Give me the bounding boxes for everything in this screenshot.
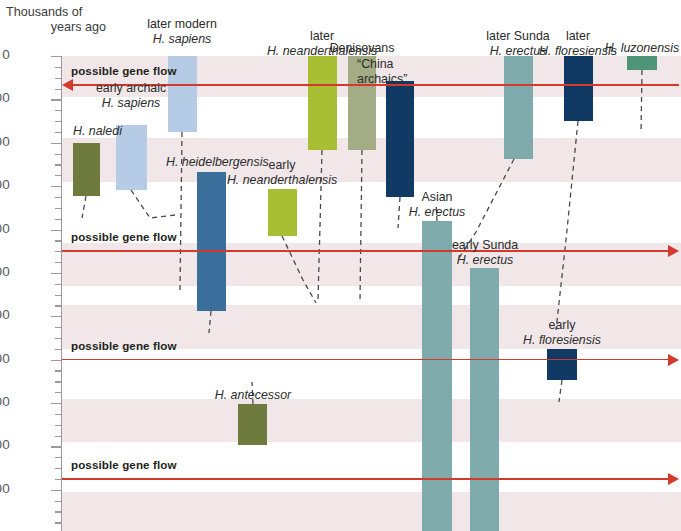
axis-tick-minor <box>55 164 61 165</box>
arrow-head <box>668 354 679 366</box>
axis-tick-minor <box>55 349 61 350</box>
species-bar <box>627 56 657 70</box>
species-label-line: “China <box>357 57 407 72</box>
species-bar <box>308 56 337 150</box>
species-label-line: Asian <box>409 190 465 205</box>
axis-tick-major <box>51 143 61 144</box>
species-label-line: archaics” <box>357 72 407 87</box>
species-label-line: H. erectus <box>409 205 465 220</box>
species-bar <box>197 172 226 311</box>
axis-tick-label: 900 <box>0 437 10 452</box>
axis-tick-label: 400 <box>0 221 10 236</box>
species-label: early archaicH. sapiens <box>96 81 166 110</box>
arrow-head <box>62 79 73 91</box>
axis-tick-minor <box>55 110 61 111</box>
axis-tick-label: 800 <box>0 394 10 409</box>
axis-tick-minor <box>55 208 61 209</box>
axis-tick-major <box>51 56 61 57</box>
axis-tick-label: 100 <box>0 90 10 105</box>
species-label: early SundaH. erectus <box>452 238 518 267</box>
hominin-timeline-figure: Thousands of years ago 01002003004005006… <box>0 0 681 531</box>
axis-tick-major <box>51 230 61 231</box>
background-band <box>62 399 681 442</box>
axis-tick-label: 500 <box>0 264 10 279</box>
species-label-line: H. luzonensis <box>605 41 679 56</box>
axis-tick-major <box>51 99 61 100</box>
species-label: earlyH. neanderthalensis <box>227 158 337 187</box>
axis-tick-label: 300 <box>0 177 10 192</box>
gene-flow-arrow <box>62 245 679 257</box>
species-label-line: H. sapiens <box>147 32 217 47</box>
species-bar <box>470 268 499 531</box>
axis-tick-minor <box>55 262 61 263</box>
species-label: AsianH. erectus <box>409 190 465 219</box>
gene-flow-arrow <box>62 354 679 366</box>
species-label-line: early <box>227 158 337 173</box>
axis-tick-minor <box>55 501 61 502</box>
species-label-line: H. floresiensis <box>523 333 601 348</box>
axis-tick-label: 600 <box>0 307 10 322</box>
axis-tick-minor <box>55 89 61 90</box>
axis-tick-minor <box>55 370 61 371</box>
axis-tick-minor <box>55 511 61 512</box>
axis-tick-major <box>51 403 61 404</box>
gene-flow-arrow <box>62 473 679 485</box>
axis-tick-minor <box>55 479 61 480</box>
gene-flow-label: possible gene flow <box>71 230 177 243</box>
species-bar <box>386 81 414 197</box>
axis-tick-minor <box>55 522 61 523</box>
species-label: H. luzonensis <box>605 41 679 56</box>
axis-tick-minor <box>55 305 61 306</box>
axis-tick-minor <box>55 121 61 122</box>
axis-tick-major <box>51 490 61 491</box>
arrow-shaft <box>62 359 670 361</box>
species-label-line: H. neanderthalensis <box>227 173 337 188</box>
axis-tick-major <box>51 273 61 274</box>
species-label-line: H. antecessor <box>215 388 291 403</box>
species-label: later modernH. sapiens <box>147 17 217 46</box>
species-label-line: early <box>523 318 601 333</box>
arrow-head <box>668 245 679 257</box>
arrow-head <box>668 473 679 485</box>
species-label-line: early Sunda <box>452 238 518 253</box>
species-label: H. antecessor <box>215 388 291 403</box>
species-label-line: early archaic <box>96 81 166 96</box>
species-label-line: Denisovans <box>330 41 395 56</box>
axis-tick-minor <box>55 425 61 426</box>
species-label: H. naledi <box>73 124 122 139</box>
axis-tick-major <box>51 446 61 447</box>
species-label: earlyH. floresiensis <box>523 318 601 347</box>
axis-tick-minor <box>55 240 61 241</box>
axis-tick-minor <box>55 284 61 285</box>
species-label-line: H. naledi <box>73 124 122 139</box>
axis-tick-minor <box>55 154 61 155</box>
axis-tick-minor <box>55 338 61 339</box>
axis-tick-minor <box>55 414 61 415</box>
axis-tick-major <box>51 186 61 187</box>
axis-tick-minor <box>55 457 61 458</box>
species-label-line: H. erectus <box>452 253 518 268</box>
species-label-line: H. sapiens <box>96 96 166 111</box>
axis-tick-minor <box>55 78 61 79</box>
axis-tick-minor <box>55 436 61 437</box>
axis-tick-minor <box>55 251 61 252</box>
species-bar <box>73 143 100 196</box>
axis-tick-minor <box>55 175 61 176</box>
species-bar <box>268 189 297 236</box>
axis-tick-minor <box>55 132 61 133</box>
species-bar <box>238 404 267 445</box>
axis-tick-label: 0 <box>2 47 10 62</box>
species-label-line: later modern <box>147 17 217 32</box>
axis-tick-label: 700 <box>0 351 10 366</box>
species-bar <box>504 56 533 159</box>
arrow-shaft <box>62 478 670 480</box>
species-label: Denisovans <box>330 41 395 56</box>
species-label: “Chinaarchaics” <box>357 57 407 86</box>
axis-tick-minor <box>55 219 61 220</box>
axis-tick-major <box>51 360 61 361</box>
axis-tick-minor <box>55 67 61 68</box>
axis-tick-major <box>51 316 61 317</box>
arrow-shaft <box>62 250 670 252</box>
axis-tick-minor <box>55 197 61 198</box>
axis-tick-label: 1000 <box>0 481 10 496</box>
